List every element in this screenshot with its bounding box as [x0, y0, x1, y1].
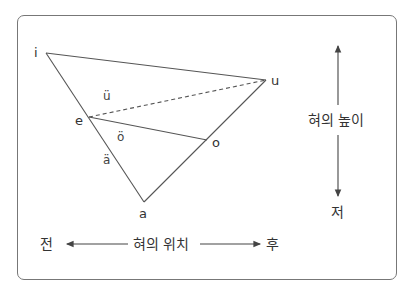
line-e-o [89, 117, 207, 140]
front-label: 전 [40, 237, 53, 251]
vowel-triangle [0, 0, 414, 296]
line-e-u-dashed [89, 80, 266, 117]
vowel-u-umlaut: ü [103, 90, 111, 102]
vowel-a-umlaut: ä [103, 154, 110, 166]
back-label: 후 [266, 237, 279, 251]
vowel-i: i [34, 46, 38, 59]
tongue-height-label: 혀의 높이 [308, 113, 364, 127]
line-i-a [46, 53, 144, 202]
low-label: 저 [331, 205, 344, 219]
line-u-a [144, 80, 266, 202]
vowel-a: a [139, 207, 147, 220]
tongue-position-label: 혀의 위치 [133, 237, 189, 251]
vowel-u: u [271, 74, 279, 87]
line-i-u [46, 53, 266, 80]
vowel-e: e [75, 114, 83, 127]
vowel-o-umlaut: ö [117, 131, 124, 143]
vowel-o: o [212, 136, 220, 149]
